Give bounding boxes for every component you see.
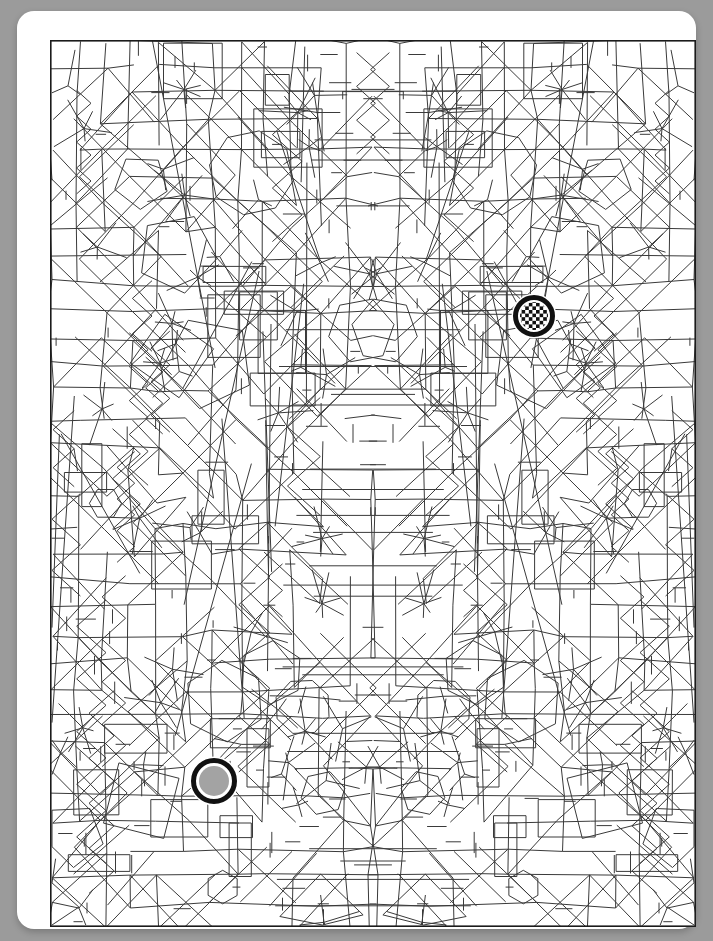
checker-marker-core — [520, 302, 548, 330]
artwork-card — [17, 11, 696, 929]
gray-marker[interactable] — [190, 757, 239, 806]
gray-marker-core — [199, 766, 229, 796]
checker-marker[interactable] — [512, 294, 557, 339]
artwork-frame — [50, 40, 696, 927]
artwork-background — [50, 40, 696, 927]
screenshot-stage: Checkered token Gray token — [0, 0, 713, 941]
generative-pattern-svg — [50, 40, 696, 927]
